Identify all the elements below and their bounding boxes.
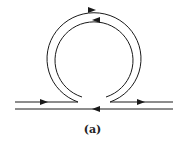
arrow-right-icon bbox=[137, 99, 145, 105]
arrow-right-icon bbox=[40, 99, 48, 105]
inner-loop-line bbox=[55, 22, 133, 97]
arrow-left-icon bbox=[92, 106, 100, 112]
arrow-right-icon bbox=[88, 7, 96, 13]
figure-canvas: (a) bbox=[0, 0, 185, 147]
figure-caption: (a) bbox=[0, 123, 185, 136]
arrows bbox=[40, 7, 145, 112]
outer-loop-line bbox=[47, 13, 141, 102]
